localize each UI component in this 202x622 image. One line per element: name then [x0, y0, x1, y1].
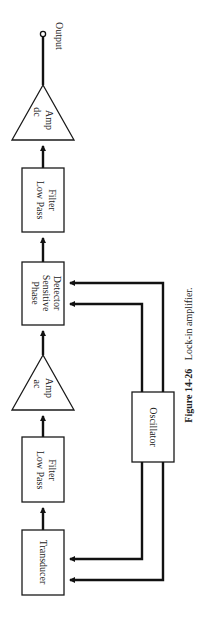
ac-amp-triangle: ac Amp	[12, 355, 74, 410]
low-pass-filter-1-block: Low Pass Filter	[22, 437, 64, 502]
psd-label-2: Sensitive	[41, 275, 52, 312]
lpf1-label-2: Filter	[47, 459, 58, 481]
arrow-osc-to-psd-2	[70, 283, 163, 392]
svg-text:Figure 14-26 Lock-in amp: Figure 14-26 Lock-in amplifier.	[183, 287, 194, 422]
lpf2-label-1: Low Pass	[35, 181, 46, 220]
output-label: Output	[54, 22, 65, 50]
ac-amp-label-1: ac	[32, 380, 43, 389]
psd-label-1: Phase	[30, 281, 41, 305]
figure-caption: Figure 14-26 Lock-in amplifier.	[183, 287, 194, 422]
output-terminal	[40, 31, 45, 85]
phase-sensitive-detector-block: Phase Sensitive Detector	[22, 262, 64, 325]
lock-in-amplifier-diagram: Output dc Amp Low Pass Filter Phase Sens…	[0, 0, 202, 622]
arrow-osc-to-transducer-1	[70, 462, 142, 559]
figure-number: Figure 14-26	[183, 369, 194, 423]
dc-amp-label-2: Amp	[44, 110, 55, 130]
ac-amp-label-2: Amp	[44, 378, 55, 398]
transducer-block: Transducer	[22, 530, 64, 595]
caption-text: Lock-in amplifier.	[183, 287, 194, 360]
arrow-osc-to-psd-1	[70, 304, 142, 392]
lpf2-label-2: Filter	[47, 189, 58, 211]
lpf1-label-1: Low Pass	[35, 451, 46, 490]
arrow-osc-to-transducer-2	[70, 462, 163, 580]
dc-amp-label-1: dc	[32, 107, 43, 117]
oscillator-block: Oscillator	[132, 392, 174, 462]
low-pass-filter-2-block: Low Pass Filter	[22, 168, 64, 232]
psd-label-3: Detector	[52, 276, 63, 311]
dc-amp-triangle: dc Amp	[12, 85, 74, 140]
transducer-label: Transducer	[38, 540, 49, 585]
oscillator-label: Oscillator	[148, 407, 159, 447]
